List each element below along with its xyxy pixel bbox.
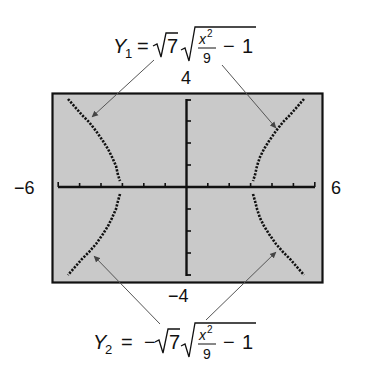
y1-frac-den: 9 xyxy=(203,50,211,66)
y1-equation: Y 1 = 7 x 2 9 − 1 xyxy=(113,27,256,66)
y1-minus: − xyxy=(223,35,235,57)
y-min-label: −4 xyxy=(168,286,189,306)
y2-lhs-sub: 2 xyxy=(105,342,112,357)
y2-equals: = xyxy=(121,331,133,353)
y-max-label: 4 xyxy=(181,68,191,88)
x-max-label: 6 xyxy=(331,178,341,198)
y1-const: 1 xyxy=(242,35,253,57)
x-min-label: −6 xyxy=(14,178,35,198)
y1-equals: = xyxy=(137,35,149,57)
y2-frac-num-exp: 2 xyxy=(207,324,213,335)
y2-frac-den: 9 xyxy=(203,346,211,362)
hyperbola-figure: Y 1 = 7 x 2 9 − 1 4 xyxy=(0,0,369,384)
y1-lhs-sub: 1 xyxy=(125,46,132,61)
y1-frac-num-exp: 2 xyxy=(207,28,213,39)
y2-frac-num-var: x xyxy=(198,327,207,343)
y1-root-coeff: 7 xyxy=(167,35,178,57)
y2-equation: Y 2 = − 7 x 2 9 − 1 xyxy=(93,323,256,362)
y2-sign: − xyxy=(144,331,156,353)
y1-frac-num-var: x xyxy=(198,31,207,47)
y2-const: 1 xyxy=(242,331,253,353)
y2-minus: − xyxy=(223,331,235,353)
y2-root-coeff: 7 xyxy=(169,331,180,353)
